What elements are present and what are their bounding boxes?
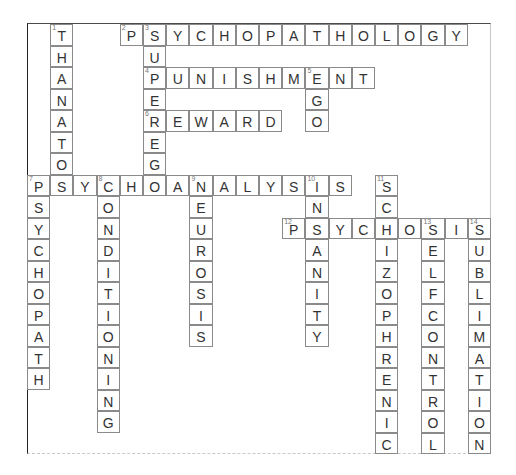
crossword-cell[interactable]: I [213, 67, 236, 89]
crossword-cell[interactable]: T [352, 67, 375, 89]
crossword-cell[interactable]: C [189, 24, 212, 46]
crossword-cell[interactable]: 3S [143, 24, 166, 46]
crossword-cell[interactable]: T [305, 24, 328, 46]
crossword-cell[interactable]: C [352, 218, 375, 240]
crossword-cell[interactable]: A [27, 325, 50, 347]
crossword-cell[interactable]: 5E [305, 67, 328, 89]
crossword-cell[interactable]: S [282, 175, 305, 197]
crossword-cell[interactable]: 12P [282, 218, 305, 240]
crossword-cell[interactable]: C [375, 433, 398, 455]
crossword-cell[interactable]: N [97, 218, 120, 240]
crossword-cell[interactable]: O [421, 325, 444, 347]
crossword-cell[interactable]: L [421, 433, 444, 455]
crossword-cell[interactable]: H [329, 24, 352, 46]
crossword-cell[interactable]: N [189, 67, 212, 89]
crossword-cell[interactable]: H [375, 325, 398, 347]
crossword-cell[interactable]: O [236, 24, 259, 46]
crossword-cell[interactable]: L [421, 261, 444, 283]
crossword-cell[interactable]: Y [445, 24, 468, 46]
crossword-cell[interactable]: Y [259, 175, 282, 197]
crossword-cell[interactable]: B [468, 261, 491, 283]
crossword-cell[interactable]: T [421, 368, 444, 390]
crossword-cell[interactable]: D [259, 110, 282, 132]
crossword-cell[interactable]: R [236, 110, 259, 132]
crossword-cell[interactable]: O [143, 175, 166, 197]
crossword-cell[interactable]: 1T [50, 24, 73, 46]
crossword-cell[interactable]: T [305, 304, 328, 326]
crossword-cell[interactable]: I [445, 218, 468, 240]
crossword-cell[interactable]: I [189, 304, 212, 326]
crossword-cell[interactable]: U [143, 46, 166, 68]
crossword-cell[interactable]: O [50, 153, 73, 175]
crossword-cell[interactable]: G [421, 24, 444, 46]
crossword-cell[interactable]: P [375, 304, 398, 326]
crossword-cell[interactable]: S [189, 282, 212, 304]
crossword-cell[interactable]: A [213, 175, 236, 197]
crossword-cell[interactable]: Y [329, 218, 352, 240]
crossword-cell[interactable]: Y [73, 175, 96, 197]
crossword-cell[interactable]: H [120, 175, 143, 197]
crossword-cell[interactable]: L [375, 24, 398, 46]
crossword-cell[interactable]: O [421, 411, 444, 433]
crossword-cell[interactable]: O [352, 24, 375, 46]
crossword-cell[interactable]: 4P [143, 67, 166, 89]
crossword-cell[interactable]: Y [305, 325, 328, 347]
crossword-cell[interactable]: N [97, 390, 120, 412]
crossword-cell[interactable]: R [189, 239, 212, 261]
crossword-cell[interactable]: N [421, 347, 444, 369]
crossword-cell[interactable]: I [468, 304, 491, 326]
crossword-cell[interactable]: Z [375, 261, 398, 283]
crossword-cell[interactable]: N [375, 390, 398, 412]
crossword-cell[interactable]: E [143, 89, 166, 111]
crossword-cell[interactable]: N [305, 261, 328, 283]
crossword-cell[interactable]: S [27, 196, 50, 218]
crossword-cell[interactable]: O [375, 282, 398, 304]
crossword-cell[interactable]: L [236, 175, 259, 197]
crossword-cell[interactable]: T [50, 132, 73, 154]
crossword-cell[interactable]: H [213, 24, 236, 46]
crossword-cell[interactable]: N [97, 347, 120, 369]
crossword-cell[interactable]: W [189, 110, 212, 132]
crossword-cell[interactable]: S [189, 325, 212, 347]
crossword-cell[interactable]: F [421, 282, 444, 304]
crossword-cell[interactable]: 11S [375, 175, 398, 197]
crossword-cell[interactable]: H [27, 368, 50, 390]
crossword-cell[interactable]: S [50, 175, 73, 197]
crossword-cell[interactable]: O [97, 325, 120, 347]
crossword-cell[interactable]: N [329, 67, 352, 89]
crossword-cell[interactable]: A [468, 347, 491, 369]
crossword-cell[interactable]: L [468, 282, 491, 304]
crossword-cell[interactable]: A [305, 239, 328, 261]
crossword-cell[interactable]: U [166, 67, 189, 89]
crossword-cell[interactable]: 10I [305, 175, 328, 197]
crossword-cell[interactable]: H [375, 218, 398, 240]
crossword-cell[interactable]: Y [27, 218, 50, 240]
crossword-cell[interactable]: R [375, 347, 398, 369]
crossword-cell[interactable]: O [97, 196, 120, 218]
crossword-cell[interactable]: A [282, 24, 305, 46]
crossword-cell[interactable]: R [421, 390, 444, 412]
crossword-cell[interactable]: S [305, 218, 328, 240]
crossword-cell[interactable]: I [375, 239, 398, 261]
crossword-cell[interactable]: E [189, 196, 212, 218]
crossword-cell[interactable]: 9N [189, 175, 212, 197]
crossword-cell[interactable]: G [97, 411, 120, 433]
crossword-cell[interactable]: A [50, 67, 73, 89]
crossword-cell[interactable]: N [50, 89, 73, 111]
crossword-cell[interactable]: H [27, 261, 50, 283]
crossword-cell[interactable]: G [305, 89, 328, 111]
crossword-cell[interactable]: U [468, 239, 491, 261]
crossword-cell[interactable]: C [421, 304, 444, 326]
crossword-cell[interactable]: 13S [421, 218, 444, 240]
crossword-cell[interactable]: P [27, 304, 50, 326]
crossword-cell[interactable]: M [282, 67, 305, 89]
crossword-cell[interactable]: E [375, 368, 398, 390]
crossword-cell[interactable]: I [97, 304, 120, 326]
crossword-cell[interactable]: 2P [120, 24, 143, 46]
crossword-cell[interactable]: S [329, 175, 352, 197]
crossword-cell[interactable]: I [305, 282, 328, 304]
crossword-cell[interactable]: T [97, 282, 120, 304]
crossword-cell[interactable]: 6R [143, 110, 166, 132]
crossword-cell[interactable]: O [468, 411, 491, 433]
crossword-cell[interactable]: I [97, 261, 120, 283]
